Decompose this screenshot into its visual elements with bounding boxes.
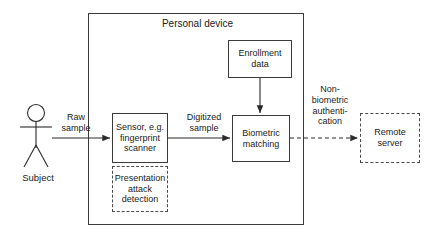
stick-figure-icon	[20, 105, 52, 168]
node-sensor[interactable]: Sensor, e.g. fingerprint scanner	[112, 113, 168, 163]
edge-label-non-biometric-authentication: Non- biometric authenti- cation	[303, 84, 357, 127]
edge-label-digitized-sample: Digitized sample	[176, 112, 232, 134]
node-remote-server-label: Remote server	[374, 127, 406, 148]
node-presentation-attack-detection[interactable]: Presentation attack detection	[112, 166, 168, 212]
node-presentation-attack-detection-label: Presentation attack detection	[115, 173, 166, 205]
personal-device-title: Personal device	[135, 18, 260, 30]
node-biometric-matching[interactable]: Biometric matching	[232, 115, 290, 162]
actor-label-subject: Subject	[8, 172, 68, 183]
node-enrollment-data[interactable]: Enrollment data	[228, 40, 292, 78]
edge-label-raw-sample: Raw sample	[54, 112, 98, 134]
node-biometric-matching-label: Biometric matching	[242, 128, 280, 149]
diagram-canvas: Personal device Subject Raw sample Digit…	[0, 0, 432, 240]
node-remote-server[interactable]: Remote server	[360, 113, 420, 163]
node-sensor-label: Sensor, e.g. fingerprint scanner	[116, 122, 164, 154]
node-enrollment-data-label: Enrollment data	[238, 48, 281, 69]
